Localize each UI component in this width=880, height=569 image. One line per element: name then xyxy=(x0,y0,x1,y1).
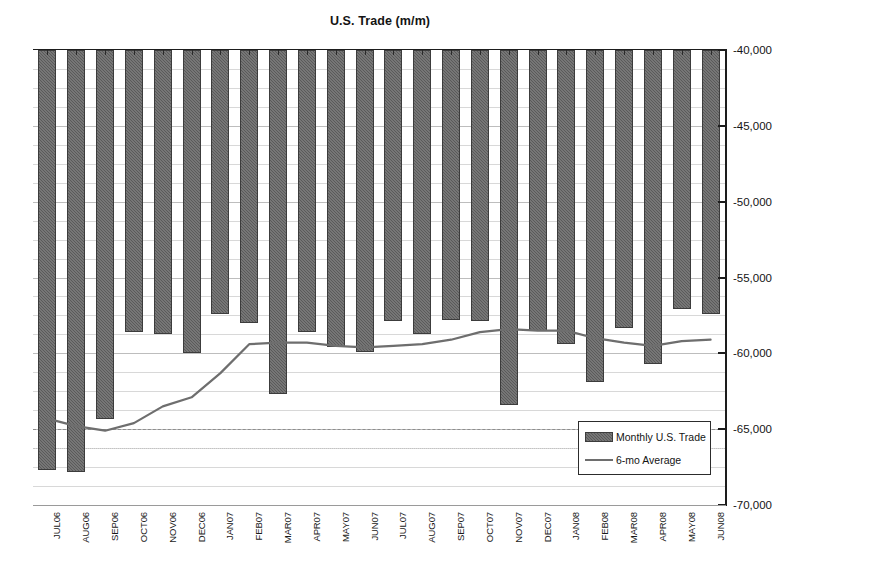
x-axis-line xyxy=(33,505,726,506)
x-label-oct07: OCT07 xyxy=(484,512,495,542)
x-label-jul06: JUL06 xyxy=(51,512,62,539)
x-tick-mark xyxy=(307,50,308,55)
x-tick-mark xyxy=(682,50,683,55)
x-label-feb08: FEB08 xyxy=(599,512,610,541)
y-tick-label: -60,000 xyxy=(733,347,772,359)
x-tick-mark xyxy=(76,50,77,55)
x-tick-mark xyxy=(220,50,221,55)
y-tick-mark xyxy=(718,428,726,430)
y-tick-mark xyxy=(718,125,726,127)
y-tick-label: -40,000 xyxy=(733,44,772,56)
x-tick-mark xyxy=(278,50,279,55)
legend-item-six-month-average: 6-mo Average xyxy=(585,452,681,468)
y-tick-mark xyxy=(718,201,726,203)
x-tick-mark xyxy=(595,50,596,55)
x-tick-mark xyxy=(47,50,48,55)
x-label-jul07: JUL07 xyxy=(397,512,408,539)
x-tick-mark xyxy=(451,50,452,55)
x-tick-mark xyxy=(192,50,193,55)
y-tick-mark xyxy=(718,352,726,354)
chart-title: U.S. Trade (m/m) xyxy=(0,14,760,28)
y-tick-label: -70,000 xyxy=(733,499,772,511)
x-tick-mark xyxy=(134,50,135,55)
y-tick-mark xyxy=(718,49,726,51)
x-tick-mark xyxy=(509,50,510,55)
x-label-sep06: SEP06 xyxy=(109,512,120,541)
x-tick-mark xyxy=(624,50,625,55)
x-tick-mark xyxy=(711,50,712,55)
x-tick-mark xyxy=(422,50,423,55)
y-tick-mark xyxy=(718,277,726,279)
legend-line-swatch-icon xyxy=(585,459,613,461)
x-label-oct06: OCT06 xyxy=(138,512,149,542)
x-tick-mark xyxy=(566,50,567,55)
x-label-nov07: NOV07 xyxy=(513,512,524,543)
legend-label-monthly-trade: Monthly U.S. Trade xyxy=(616,431,706,443)
y-tick-label: -65,000 xyxy=(733,423,772,435)
x-label-jun07: JUN07 xyxy=(369,512,380,541)
x-label-sep07: SEP07 xyxy=(455,512,466,541)
x-tick-mark xyxy=(336,50,337,55)
x-label-jan07: JAN07 xyxy=(224,512,235,540)
x-tick-mark xyxy=(393,50,394,55)
x-label-may07: MAY07 xyxy=(340,512,351,542)
x-tick-mark xyxy=(653,50,654,55)
x-label-mar08: MAR08 xyxy=(628,512,639,543)
x-tick-mark xyxy=(163,50,164,55)
x-label-nov06: NOV06 xyxy=(167,512,178,543)
x-tick-mark xyxy=(538,50,539,55)
x-tick-mark xyxy=(249,50,250,55)
x-label-jan08: JAN08 xyxy=(570,512,581,540)
x-label-feb07: FEB07 xyxy=(253,512,264,541)
x-label-dec06: DEC06 xyxy=(196,512,207,542)
y-tick-label: -55,000 xyxy=(733,272,772,284)
x-tick-mark xyxy=(480,50,481,55)
y-tick-label: -45,000 xyxy=(733,120,772,132)
x-label-jun08: JUN08 xyxy=(715,512,726,541)
chart-legend: Monthly U.S. Trade 6-mo Average xyxy=(578,421,711,475)
x-label-aug06: AUG06 xyxy=(80,512,91,543)
x-label-aug07: AUG07 xyxy=(426,512,437,543)
legend-bar-swatch-icon xyxy=(585,432,613,442)
x-tick-mark xyxy=(105,50,106,55)
x-label-mar07: MAR07 xyxy=(282,512,293,543)
x-label-apr08: APR08 xyxy=(657,512,668,542)
x-label-may08: MAY08 xyxy=(686,512,697,542)
x-tick-mark xyxy=(365,50,366,55)
legend-label-six-month-average: 6-mo Average xyxy=(616,454,681,466)
x-label-apr07: APR07 xyxy=(311,512,322,542)
chart-container: U.S. Trade (m/m) -40,000-45,000-50,000-5… xyxy=(0,0,880,569)
y-tick-label: -50,000 xyxy=(733,196,772,208)
legend-item-monthly-trade: Monthly U.S. Trade xyxy=(585,429,706,445)
x-label-dec07: DEC07 xyxy=(542,512,553,542)
